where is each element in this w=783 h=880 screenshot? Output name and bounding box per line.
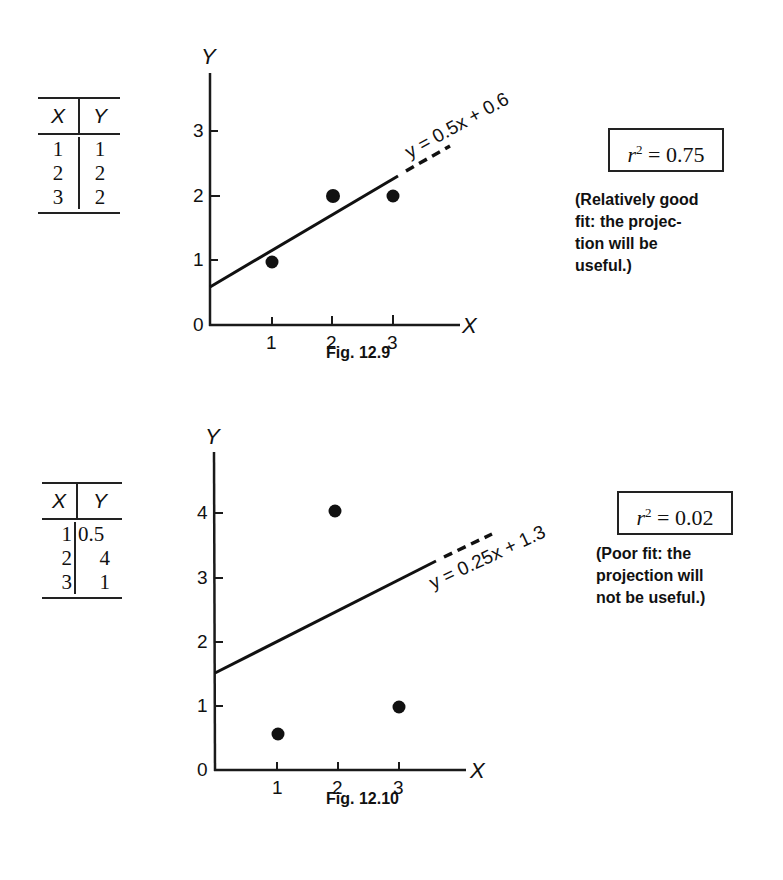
y-axis-label: Y <box>205 424 220 450</box>
fit-note: (Poor fit: the projection will not be us… <box>596 543 705 609</box>
y-tick-label: 3 <box>193 120 204 142</box>
data-point <box>272 728 285 741</box>
regression-line <box>215 561 436 673</box>
y-axis-label: Y <box>201 44 216 70</box>
y-tick-label: 0 <box>193 314 204 336</box>
data-point <box>393 701 406 714</box>
regression-line <box>210 176 398 287</box>
data-point <box>266 256 279 269</box>
figure-caption: Fig. 12.10 <box>326 790 399 808</box>
r-squared-box: r2 = 0.02 <box>617 491 733 535</box>
y-axis <box>214 452 215 771</box>
x-axis-label: X <box>470 758 485 784</box>
y-tick-label: 2 <box>193 185 204 207</box>
data-point <box>387 190 400 203</box>
r-squared-box: r2 = 0.75 <box>608 128 724 172</box>
y-tick-label: 2 <box>197 631 208 653</box>
data-point <box>329 505 342 518</box>
y-tick-label: 0 <box>197 759 208 781</box>
data-point <box>326 189 340 203</box>
x-axis-label: X <box>462 313 477 339</box>
y-tick-label: 4 <box>197 502 208 524</box>
x-tick-label: 1 <box>266 332 277 354</box>
figure-caption: Fig. 12.9 <box>326 344 390 362</box>
x-tick-label: 1 <box>272 777 283 799</box>
fit-note: (Relatively good fit: the projec- tion w… <box>575 189 699 277</box>
y-tick-label: 1 <box>193 249 204 271</box>
y-tick-label: 1 <box>197 695 208 717</box>
scatter-plot-fig2 <box>0 420 783 880</box>
y-tick-label: 3 <box>197 567 208 589</box>
